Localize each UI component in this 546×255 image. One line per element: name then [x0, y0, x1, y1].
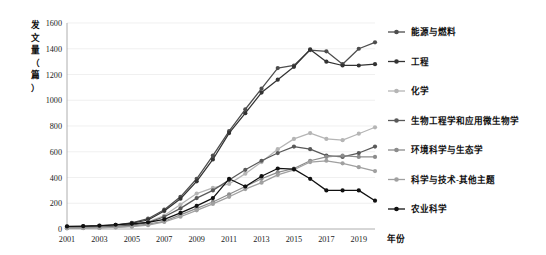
series-point: [276, 166, 280, 170]
chart-page: 02004006008001000120014001600 2001200320…: [0, 0, 546, 255]
x-tick-label: 2001: [59, 235, 75, 244]
series-point: [292, 65, 296, 69]
x-axis-title-label: 年份: [387, 233, 405, 244]
series-point: [195, 204, 199, 208]
x-tick-labels: 2001200320052007200920112013201520172019: [59, 235, 367, 244]
legend-swatch-marker: [394, 118, 399, 123]
series-point: [259, 181, 263, 185]
y-tick-label: 1200: [46, 71, 62, 80]
series-point: [227, 195, 231, 199]
y-axis-title-char: ）: [31, 83, 40, 93]
series-point: [178, 202, 182, 206]
series-point: [259, 159, 263, 163]
y-tick-labels: 02004006008001000120014001600: [46, 19, 62, 234]
series-point: [65, 224, 69, 228]
series-point: [324, 49, 328, 53]
series-point: [357, 155, 361, 159]
series-point: [227, 177, 231, 181]
series-point: [357, 47, 361, 51]
series-group: [65, 40, 377, 230]
series-point: [162, 217, 166, 221]
y-tick-label: 600: [50, 148, 62, 157]
x-tick-label: 2011: [221, 235, 237, 244]
series-point: [162, 209, 166, 213]
series-point: [130, 222, 134, 226]
series-point: [373, 199, 377, 203]
legend-label: 工程: [411, 56, 429, 67]
series-point: [146, 220, 150, 224]
x-axis-title: 年份: [387, 233, 405, 244]
legend-item[interactable]: 能源与燃料: [388, 26, 456, 37]
series-point: [324, 155, 328, 159]
series-point: [97, 224, 101, 228]
legend-swatch-marker: [394, 59, 399, 64]
legend-label: 科学与技术-其他主题: [411, 174, 495, 185]
legend-item[interactable]: 科学与技术-其他主题: [388, 174, 495, 185]
x-tick-label: 2015: [286, 235, 302, 244]
series-point: [340, 161, 344, 165]
y-axis-title-char: 篇: [31, 69, 40, 80]
legend: 能源与燃料工程化学生物工程学和应用微生物学环境科学与生态学科学与技术-其他主题农…: [388, 26, 519, 214]
legend-label: 环境科学与生态学: [411, 144, 483, 155]
series-point: [357, 165, 361, 169]
series-point: [195, 179, 199, 183]
series-point: [357, 63, 361, 67]
legend-item[interactable]: 化学: [388, 85, 429, 96]
legend-label: 化学: [411, 85, 429, 96]
series-point: [243, 172, 247, 176]
legend-swatch-marker: [394, 30, 399, 35]
x-tick-label: 2005: [124, 235, 140, 244]
x-tick-label: 2013: [253, 235, 269, 244]
series-point: [276, 78, 280, 82]
series-5: [65, 159, 377, 231]
y-axis-title-char: （: [31, 58, 40, 68]
series-point: [243, 168, 247, 172]
series-point: [324, 159, 328, 163]
y-tick-label: 0: [58, 225, 62, 234]
x-tick-label: 2019: [351, 235, 367, 244]
line-chart: 02004006008001000120014001600 2001200320…: [0, 0, 546, 255]
series-point: [195, 191, 199, 195]
series-point: [195, 196, 199, 200]
series-point: [81, 224, 85, 228]
series-point: [211, 202, 215, 206]
series-point: [324, 188, 328, 192]
series-point: [178, 215, 182, 219]
series-point: [292, 145, 296, 149]
series-point: [308, 177, 312, 181]
legend-item[interactable]: 环境科学与生态学: [388, 144, 483, 155]
series-point: [340, 138, 344, 142]
series-point: [259, 87, 263, 91]
series-point: [259, 90, 263, 94]
legend-label: 生物工程学和应用微生物学: [411, 115, 519, 126]
legend-item[interactable]: 工程: [388, 56, 429, 67]
y-axis-title-char: 量: [31, 44, 40, 55]
series-point: [373, 155, 377, 159]
series-point: [373, 145, 377, 149]
y-axis-title-char: 发: [30, 19, 40, 30]
grid-lines: [67, 23, 375, 203]
series-point: [373, 169, 377, 173]
x-tick-label: 2003: [91, 235, 107, 244]
series-point: [259, 174, 263, 178]
series-point: [373, 62, 377, 66]
legend-item[interactable]: 农业科学: [388, 203, 447, 214]
series-line: [67, 161, 375, 229]
legend-item[interactable]: 生物工程学和应用微生物学: [388, 115, 519, 126]
series-point: [308, 147, 312, 151]
series-line: [67, 42, 375, 226]
series-point: [178, 197, 182, 201]
series-point: [227, 182, 231, 186]
series-point: [292, 167, 296, 171]
series-point: [211, 188, 215, 192]
legend-swatch-marker: [394, 207, 399, 212]
legend-swatch-marker: [394, 177, 399, 182]
series-point: [357, 132, 361, 136]
legend-swatch-marker: [394, 89, 399, 94]
series-line: [67, 147, 375, 228]
series-3: [65, 145, 377, 231]
series-point: [211, 157, 215, 161]
y-tick-label: 1400: [46, 45, 62, 54]
series-point: [340, 63, 344, 67]
series-point: [340, 188, 344, 192]
